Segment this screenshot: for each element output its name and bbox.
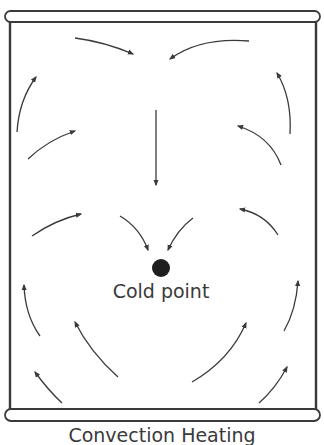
arrow-bottom-right-inner	[192, 323, 246, 382]
can-container	[5, 11, 320, 421]
cold-point-label: Cold point	[113, 280, 210, 302]
arrow-bottom-right-wall	[284, 281, 298, 331]
arrow-inner-left	[120, 216, 148, 250]
arrow-top-right	[170, 40, 249, 59]
arrow-left-lower	[32, 214, 81, 236]
arrow-bottom-left-corner	[35, 372, 62, 403]
arrow-top-left	[75, 38, 133, 54]
cold-point-dot	[152, 259, 170, 277]
arrow-bottom-left-inner	[75, 322, 118, 377]
arrow-inner-right	[168, 218, 193, 250]
arrow-left-mid	[28, 131, 75, 159]
top-rim	[5, 11, 320, 22]
arrow-right-upper	[277, 73, 290, 134]
arrow-left-upper	[17, 77, 36, 132]
arrow-bottom-right-corner	[259, 367, 287, 403]
arrow-right-mid	[238, 126, 281, 165]
bottom-rim	[5, 409, 320, 421]
arrow-right-lower	[240, 209, 278, 235]
diagram-caption: Convection Heating	[68, 424, 255, 445]
arrow-bottom-left-wall	[24, 285, 40, 336]
convection-arrows	[17, 38, 298, 403]
convection-heating-diagram: Cold point Convection Heating	[0, 0, 324, 445]
